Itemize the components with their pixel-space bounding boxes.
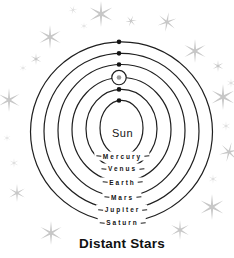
star-icon [9,184,25,202]
star-icon [185,39,206,63]
orbit-label-mercury: Mercury [94,151,149,160]
star-icon [90,1,113,27]
star-icon [158,12,177,32]
planet-dot-jupiter [117,51,122,56]
sun-label: Sun [112,127,133,139]
star-icon [227,78,234,88]
planet-dot-saturn [117,40,122,45]
orbit-label-earth: Earth [100,177,143,186]
star-icon [31,53,41,65]
star-icon [0,88,19,112]
star-icon [10,158,19,168]
star-icon [209,174,218,184]
star-icon [222,121,231,131]
star-icon [4,134,11,142]
star-icon [213,60,223,72]
orbit-label-saturn: Saturn [97,217,146,226]
star-icon [81,22,88,30]
solar-system-diagram: Sun MercuryVenusEarthMarsJupiterSaturn D… [0,0,234,258]
planet-dot-venus [117,87,122,92]
star-icon [40,25,61,49]
star-icon [201,194,224,220]
planet-dot-mercury [117,98,122,103]
orbit-label-venus: Venus [99,164,144,173]
orbit-label-mars: Mars [102,192,141,201]
star-icon [219,142,234,161]
diagram-title: Distant Stars [79,235,165,250]
star-icon [20,64,27,72]
star-icon [171,220,188,240]
planet-dot-earth [117,75,122,80]
orbit-label-jupiter: Jupiter [96,205,148,214]
star-icon [68,5,78,15]
star-icon [41,221,62,245]
star-icon [212,84,234,110]
star-icon [125,15,137,26]
planet-dot-mars [117,62,122,67]
